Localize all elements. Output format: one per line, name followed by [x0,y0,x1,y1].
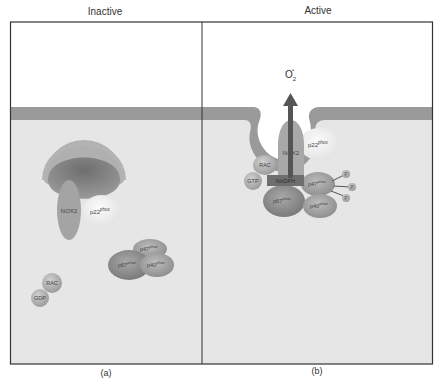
svg-text:NADPH: NADPH [276,178,295,184]
membrane-left [10,107,202,120]
p40phox-protein-active: p40phox [303,194,337,218]
p67phox-protein-active: p67phox [263,185,305,217]
nox2-label: NOX2 [61,208,78,214]
panel-label-a: (a) [101,368,112,378]
svg-text:GTP: GTP [247,178,259,184]
rac-protein-active: RAC [253,155,277,175]
gtp-molecule: GTP [244,172,262,190]
nox2-protein-inactive: NOX2 [57,180,81,240]
nadph-box: NADPH [267,175,304,186]
p47phox-protein-active: p47phox [301,172,335,196]
gdp-molecule: GDP [31,289,49,307]
rac-protein-inactive: RAC [42,273,62,293]
svg-text:RAC: RAC [46,280,58,286]
p40phox-protein-inactive: p40phox [140,253,174,277]
inactive-panel: NOX2 p22phox p47phox p67phox p40phox RAC [10,22,202,364]
p22phox-protein-inactive: p22phox [83,195,119,227]
svg-text:RAC: RAC [259,162,271,168]
p22phox-protein-active: p22phox [299,128,339,160]
svg-text:GDP: GDP [34,295,46,301]
panel-label-b: (b) [312,366,323,376]
nox2-activation-diagram: NOX2 p22phox p47phox p67phox p40phox RAC [0,0,441,386]
active-panel: p22phox NOX2 RAC GTP p67phox p47phox [202,22,433,364]
